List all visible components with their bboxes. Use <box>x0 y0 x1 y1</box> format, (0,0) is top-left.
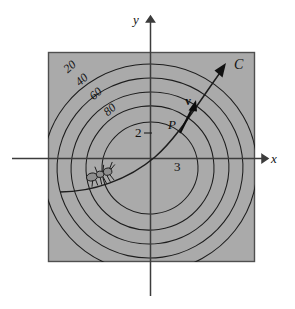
x-axis-label: x <box>271 152 277 165</box>
contour-map-figure: y x 20 40 60 80 2 3 P v C <box>0 0 295 309</box>
y-axis-arrowhead <box>147 16 155 22</box>
level-label-3: 3 <box>174 160 181 173</box>
x-axis-arrowhead <box>262 155 268 163</box>
curve-C-label: C <box>234 58 243 72</box>
level-label-2: 2 <box>135 126 142 139</box>
y-axis-label: y <box>133 13 139 26</box>
point-P-label: P <box>168 118 176 131</box>
figure-canvas <box>0 0 295 309</box>
velocity-vector-label: v <box>185 95 191 107</box>
